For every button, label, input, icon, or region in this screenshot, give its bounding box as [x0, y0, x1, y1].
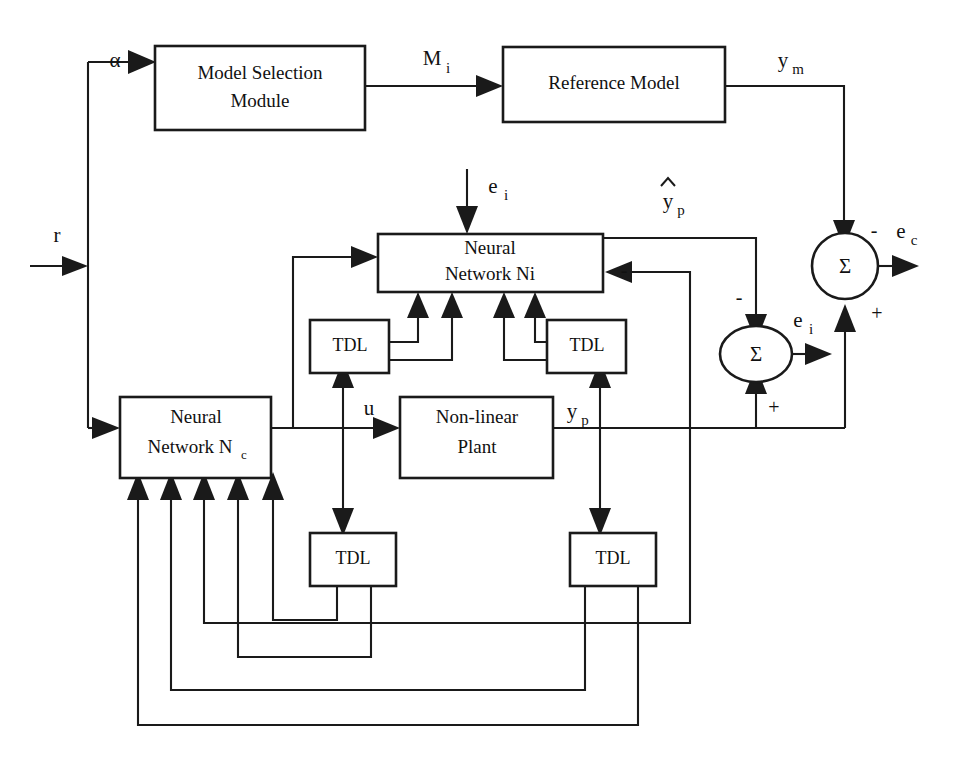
neural-network-ni-line1: Neural — [464, 237, 516, 258]
wire-yp-to-sum-ec-plus — [834, 304, 856, 428]
signal-label-ei-sum-base: e — [793, 308, 802, 332]
wire-mi-model-selection-to-reference-model — [365, 75, 503, 97]
signal-label-ym: y m — [778, 48, 804, 78]
signal-label-ei-top: e i — [488, 174, 508, 204]
block-diagram-svg: Model Selection Module Reference Model N… — [0, 0, 962, 769]
wire-yp-to-tdl-lower-right — [589, 428, 611, 536]
model-selection-module-line2: Module — [230, 90, 289, 111]
sign-minus-ec-output: - — [871, 219, 878, 241]
sign-minus-ei-input: - — [736, 286, 743, 308]
signal-label-ei-sum-sub: i — [809, 321, 813, 337]
signal-label-ym-sub: m — [792, 61, 804, 77]
model-selection-module[interactable]: Model Selection Module — [155, 46, 365, 130]
sum-ei-sigma: Σ — [750, 342, 762, 366]
signal-label-yp-hat-base: y — [663, 189, 674, 213]
signal-label-mi-sub: i — [446, 60, 450, 76]
reference-model-label: Reference Model — [548, 72, 679, 93]
model-selection-module-line1: Model Selection — [197, 62, 323, 83]
non-linear-plant[interactable]: Non-linear Plant — [400, 397, 553, 478]
signal-label-u: u — [364, 396, 375, 420]
wire-alpha-to-model-selection — [88, 50, 156, 74]
tdl-lower-left-label: TDL — [336, 548, 371, 568]
neural-network-nc-line1: Neural — [170, 406, 222, 427]
signal-label-yp-hat: y p — [661, 178, 685, 218]
signal-label-ei-top-base: e — [488, 174, 497, 198]
signal-label-mi-base: M — [423, 46, 442, 70]
signal-label-ei-top-sub: i — [504, 187, 508, 203]
wire-tdl-upper-right-outputs — [493, 292, 547, 360]
wire-u-to-tdl-lower-left — [332, 428, 354, 536]
block-diagram-canvas: Model Selection Module Reference Model N… — [0, 0, 962, 769]
wire-r-input — [30, 256, 88, 276]
tdl-upper-left-label: TDL — [333, 335, 368, 355]
non-linear-plant-line1: Non-linear — [436, 406, 519, 427]
neural-network-ni-line2: Network Ni — [445, 263, 535, 284]
signal-label-yp-hat-sub: p — [677, 202, 685, 218]
signal-label-ym-base: y — [778, 48, 789, 72]
wire-tdl-upper-left-outputs — [389, 292, 463, 360]
wire-r-to-neural-network-nc — [88, 417, 120, 439]
wire-yphat-to-sum-ei — [603, 238, 767, 342]
tdl-upper-right-label: TDL — [570, 335, 605, 355]
neural-network-nc-subscript: c — [241, 447, 247, 462]
signal-label-alpha: α — [109, 48, 120, 72]
signal-label-yp-base: y — [567, 399, 578, 423]
tdl-lower-left[interactable]: TDL — [310, 533, 396, 586]
signal-label-ei-sum: e i — [793, 308, 813, 338]
neural-network-nc-line2: Network N — [148, 436, 233, 457]
wire-ym-to-sum-ec — [725, 86, 855, 248]
signal-label-ec: e c — [896, 219, 917, 249]
neural-network-nc[interactable]: Neural Network N c — [120, 397, 271, 478]
sum-ec-sigma: Σ — [839, 254, 851, 278]
tdl-lower-right-label: TDL — [596, 548, 631, 568]
signal-label-ec-sub: c — [911, 232, 918, 248]
sign-plus-ei-input: + — [768, 396, 779, 418]
signal-label-ec-base: e — [896, 219, 905, 243]
sum-ei[interactable]: Σ — [720, 326, 792, 382]
tdl-lower-right[interactable]: TDL — [570, 533, 656, 586]
wire-sum-ec-output — [877, 255, 919, 277]
sign-minus-ni-feedback: - — [621, 259, 628, 281]
non-linear-plant-line2: Plant — [457, 436, 497, 457]
signal-label-yp-sub: p — [581, 412, 589, 428]
signal-label-mi: M i — [423, 46, 450, 77]
tdl-upper-right[interactable]: TDL — [547, 320, 626, 373]
signal-label-yp: y p — [567, 399, 589, 429]
sum-ec[interactable]: Σ — [812, 233, 878, 299]
tdl-upper-left[interactable]: TDL — [310, 320, 389, 373]
wire-sum-ei-output — [791, 343, 832, 365]
reference-model[interactable]: Reference Model — [503, 47, 725, 122]
wire-ei-into-neural-network-ni — [456, 169, 478, 234]
signal-label-r: r — [54, 223, 61, 247]
neural-network-ni[interactable]: Neural Network Ni — [378, 234, 603, 292]
sign-plus-ec-input: + — [871, 302, 882, 324]
